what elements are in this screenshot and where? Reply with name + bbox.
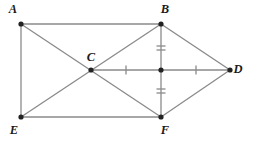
vertex-point-f <box>158 114 163 119</box>
vertex-label-e: E <box>9 123 18 137</box>
vertex-point-a <box>18 21 23 26</box>
vertex-point-d <box>227 67 232 72</box>
segment-B-D <box>161 24 230 70</box>
geometry-diagram-canvas: Geometric figure ABDFE with congruence t… <box>0 0 254 145</box>
vertex-label-c: C <box>87 50 96 64</box>
vertex-label-d: D <box>232 62 242 76</box>
vertex-point-m <box>158 67 163 72</box>
vertex-point-e <box>18 114 23 119</box>
segment-F-D <box>161 70 230 117</box>
vertex-label-f: F <box>160 123 170 137</box>
vertex-point-c <box>88 67 93 72</box>
vertex-label-a: A <box>8 2 17 16</box>
vertex-point-b <box>158 21 163 26</box>
vertex-label-b: B <box>160 2 169 16</box>
geometry-figure: Geometric figure ABDFE with congruence t… <box>0 0 254 145</box>
